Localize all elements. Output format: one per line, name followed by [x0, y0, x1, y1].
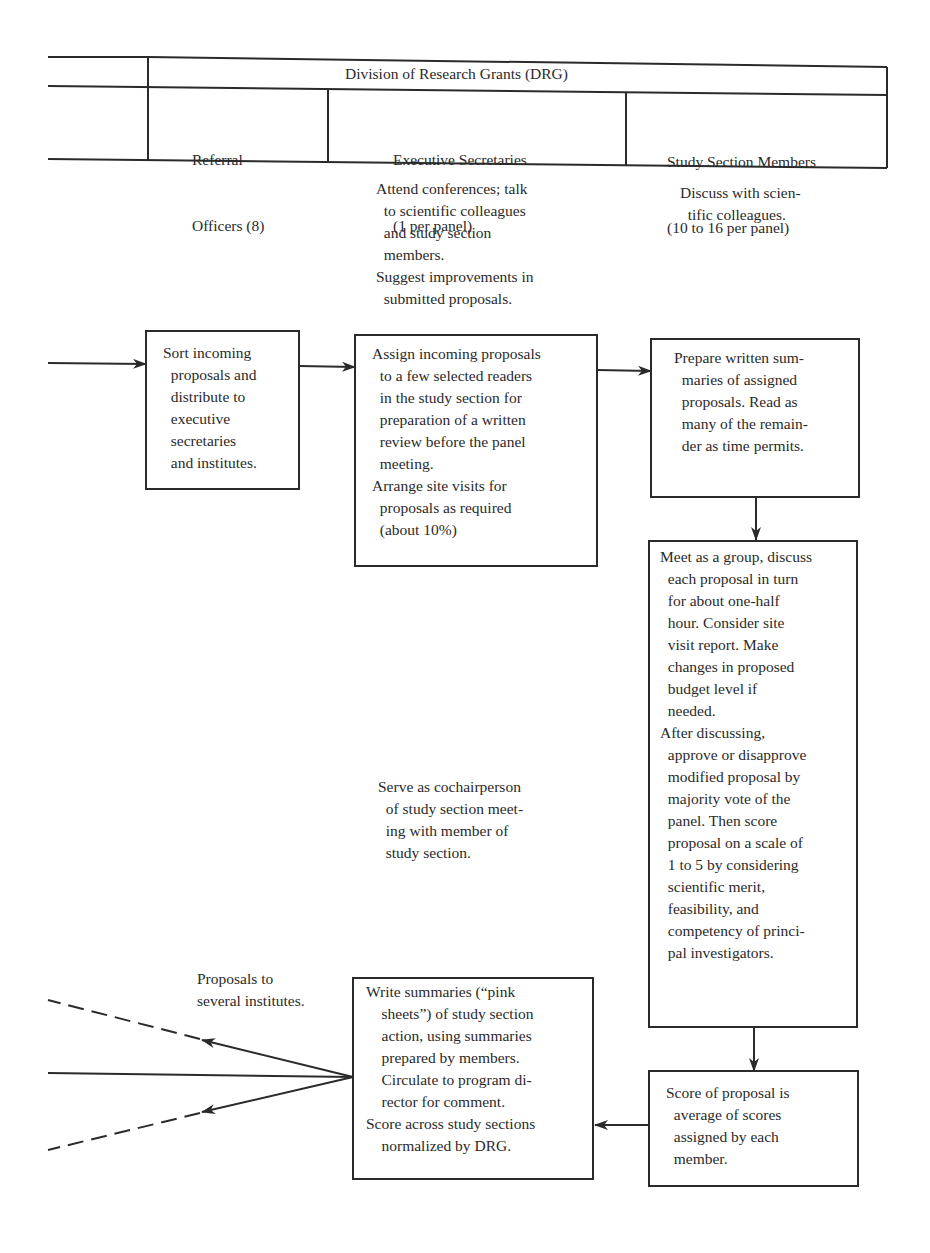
column-title: Study Section Members — [667, 151, 816, 173]
prepare-summaries-box: Prepare written sum- maries of assigned … — [650, 338, 860, 498]
write-pink-sheets-box: Write summaries (“pink sheets”) of study… — [352, 977, 594, 1180]
division-title: Division of Research Grants (DRG) — [345, 63, 568, 85]
assign-proposals-box: Assign incoming proposals to a few selec… — [354, 334, 598, 567]
meet-as-group-box: Meet as a group, discuss each proposal i… — [648, 540, 858, 1028]
cochair-note: Serve as cochairperson of study section … — [378, 776, 523, 864]
column-referral-officers: Referral Officers (8) — [192, 105, 264, 259]
box-text: Score of proposal is average of scores a… — [666, 1082, 790, 1170]
sort-proposals-box: Sort incoming proposals and distribute t… — [145, 330, 300, 490]
box-text: Prepare written sum- maries of assigned … — [674, 347, 808, 457]
column-title: Referral — [192, 149, 264, 171]
column-title: Executive Secretaries — [393, 149, 527, 171]
members-activities-note: Discuss with scien- tific colleagues. — [680, 182, 801, 226]
column-subtitle: Officers (8) — [192, 215, 264, 237]
score-average-box: Score of proposal is average of scores a… — [648, 1070, 859, 1187]
box-text: Meet as a group, discuss each proposal i… — [660, 546, 812, 964]
box-text: Sort incoming proposals and distribute t… — [163, 342, 257, 474]
proposals-to-institutes-label: Proposals to several institutes. — [197, 968, 305, 1012]
exec-sec-activities-note: Attend conferences; talk to scientific c… — [376, 178, 534, 310]
box-text: Write summaries (“pink sheets”) of study… — [366, 981, 535, 1157]
box-text: Assign incoming proposals to a few selec… — [372, 343, 541, 541]
